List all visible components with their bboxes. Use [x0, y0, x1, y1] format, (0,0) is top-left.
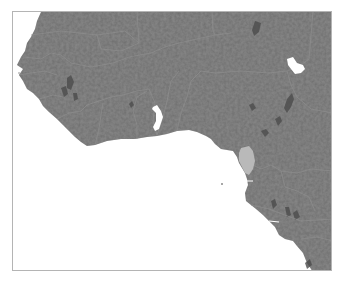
- map-frame: [12, 11, 332, 271]
- island-sao-tome: [221, 183, 223, 185]
- land-mass: [13, 12, 332, 271]
- island: [18, 72, 20, 74]
- map-canvas: [13, 12, 332, 271]
